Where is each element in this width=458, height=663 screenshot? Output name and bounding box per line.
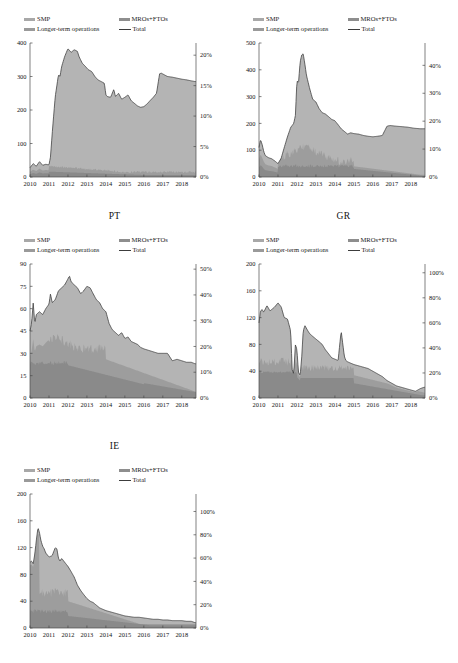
svg-text:2018: 2018 <box>404 401 417 408</box>
legend-label-total: Total <box>362 246 375 254</box>
legend-item-mro: MROs+FTOs <box>119 466 214 474</box>
svg-text:2016: 2016 <box>137 631 150 638</box>
svg-text:45: 45 <box>20 327 26 334</box>
chart-svg-5: 040801201602000%20%40%60%80%100%20102011… <box>0 488 229 653</box>
chart-svg-3: 01530456075900%10%20%30%40%50%2010201120… <box>0 258 229 423</box>
svg-text:400: 400 <box>246 66 256 73</box>
svg-text:120: 120 <box>17 544 27 551</box>
svg-text:30: 30 <box>20 350 26 357</box>
svg-text:0%: 0% <box>429 173 438 180</box>
panel-title-2 <box>229 0 458 12</box>
legend-label-smp: SMP <box>266 15 279 23</box>
plot-area-4: 040801201602000%20%40%60%80%100%20102011… <box>229 258 458 423</box>
legend-label-total: Total <box>133 476 146 484</box>
svg-text:2011: 2011 <box>43 631 56 638</box>
legend-item-smp: SMP <box>253 15 348 23</box>
svg-text:2016: 2016 <box>366 180 379 187</box>
legend-label-mro: MROs+FTOs <box>132 236 168 244</box>
svg-text:2013: 2013 <box>81 631 94 638</box>
legend-label-total: Total <box>133 246 146 254</box>
svg-text:2015: 2015 <box>347 401 360 408</box>
legend-label-smp: SMP <box>266 236 279 244</box>
legend-3: SMP MROs+FTOs Longer-term operations Tot… <box>0 236 229 254</box>
legend-label-lto: Longer-term operations <box>37 25 99 33</box>
legend-swatch-smp-icon <box>24 469 35 472</box>
legend-item-mro: MROs+FTOs <box>119 15 214 23</box>
svg-text:2011: 2011 <box>272 401 285 408</box>
legend-item-lto: Longer-term operations <box>24 25 119 33</box>
svg-text:40: 40 <box>20 597 26 604</box>
svg-text:2013: 2013 <box>310 180 323 187</box>
svg-text:20%: 20% <box>200 601 212 608</box>
legend-swatch-lto-icon <box>253 249 264 252</box>
legend-swatch-lto-icon <box>24 479 35 482</box>
legend-swatch-smp-icon <box>253 239 264 242</box>
plot-area-3: 01530456075900%10%20%30%40%50%2010201120… <box>0 258 229 423</box>
legend-5: SMP MROs+FTOs Longer-term operations Tot… <box>0 466 229 484</box>
legend-line-total-icon <box>348 250 360 251</box>
svg-text:50%: 50% <box>200 265 212 272</box>
chart-panel-3: PT SMP MROs+FTOs Longer-term operations … <box>0 210 229 423</box>
legend-item-smp: SMP <box>24 466 119 474</box>
svg-text:2012: 2012 <box>62 631 75 638</box>
svg-text:2015: 2015 <box>118 401 131 408</box>
legend-item-lto: Longer-term operations <box>24 246 119 254</box>
legend-label-lto: Longer-term operations <box>266 246 328 254</box>
svg-text:60%: 60% <box>429 319 441 326</box>
legend-swatch-mro-icon <box>119 239 130 242</box>
svg-text:160: 160 <box>246 287 256 294</box>
svg-text:2018: 2018 <box>404 180 417 187</box>
legend-item-total: Total <box>119 25 214 33</box>
legend-label-mro: MROs+FTOs <box>132 15 168 23</box>
legend-label-mro: MROs+FTOs <box>361 236 397 244</box>
chart-panel-4: GR SMP MROs+FTOs Longer-term operations … <box>229 210 458 423</box>
legend-label-smp: SMP <box>37 466 50 474</box>
svg-text:2010: 2010 <box>24 401 37 408</box>
legend-item-mro: MROs+FTOs <box>348 15 443 23</box>
svg-text:400: 400 <box>17 39 27 46</box>
svg-text:2018: 2018 <box>175 401 188 408</box>
svg-text:200: 200 <box>17 490 27 497</box>
chart-panel-1: SMP MROs+FTOs Longer-term operations Tot… <box>0 0 229 202</box>
legend-label-smp: SMP <box>37 15 50 23</box>
chart-panel-5: IE SMP MROs+FTOs Longer-term operations … <box>0 440 229 653</box>
svg-text:0%: 0% <box>200 624 209 631</box>
svg-text:2011: 2011 <box>43 180 56 187</box>
svg-text:15: 15 <box>20 372 26 379</box>
svg-text:2015: 2015 <box>118 631 131 638</box>
svg-text:100: 100 <box>246 146 256 153</box>
svg-text:2013: 2013 <box>81 401 94 408</box>
chart-panel-2: SMP MROs+FTOs Longer-term operations Tot… <box>229 0 458 202</box>
svg-text:40%: 40% <box>429 344 441 351</box>
svg-text:80: 80 <box>249 341 255 348</box>
legend-item-mro: MROs+FTOs <box>348 236 443 244</box>
legend-label-lto: Longer-term operations <box>37 246 99 254</box>
svg-text:2018: 2018 <box>175 180 188 187</box>
svg-text:2010: 2010 <box>24 180 37 187</box>
legend-2: SMP MROs+FTOs Longer-term operations Tot… <box>229 15 458 33</box>
svg-text:100%: 100% <box>200 508 216 515</box>
legend-item-smp: SMP <box>253 236 348 244</box>
svg-text:2018: 2018 <box>175 631 188 638</box>
legend-label-total: Total <box>362 25 375 33</box>
legend-item-total: Total <box>119 476 214 484</box>
svg-text:2017: 2017 <box>156 401 170 408</box>
legend-item-lto: Longer-term operations <box>24 476 119 484</box>
legend-line-total-icon <box>119 29 131 30</box>
svg-text:160: 160 <box>17 517 27 524</box>
svg-text:100%: 100% <box>429 269 445 276</box>
svg-text:2014: 2014 <box>99 180 113 187</box>
legend-item-lto: Longer-term operations <box>253 25 348 33</box>
svg-text:2010: 2010 <box>24 631 37 638</box>
svg-text:120: 120 <box>246 314 256 321</box>
svg-text:300: 300 <box>246 93 256 100</box>
svg-text:80%: 80% <box>200 531 212 538</box>
legend-label-total: Total <box>133 25 146 33</box>
legend-swatch-mro-icon <box>348 239 359 242</box>
svg-text:40: 40 <box>249 367 255 374</box>
svg-text:20%: 20% <box>429 369 441 376</box>
plot-area-5: 040801201602000%20%40%60%80%100%20102011… <box>0 488 229 653</box>
svg-text:80: 80 <box>20 571 26 578</box>
svg-text:2012: 2012 <box>62 180 75 187</box>
svg-text:2017: 2017 <box>385 401 399 408</box>
